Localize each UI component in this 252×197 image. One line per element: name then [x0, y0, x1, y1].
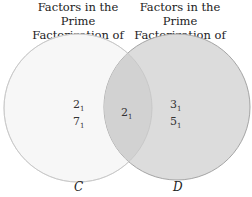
c-only-item-2: 71	[73, 115, 84, 130]
d-only-item-1: 31	[170, 98, 181, 113]
set-c-label: C	[74, 180, 83, 194]
d-only-item-2: 51	[170, 115, 181, 130]
venn-circles	[0, 0, 252, 197]
c-only-item-1: 21	[73, 98, 84, 113]
set-d-label: D	[173, 180, 183, 194]
intersection-item-1: 21	[121, 106, 132, 121]
